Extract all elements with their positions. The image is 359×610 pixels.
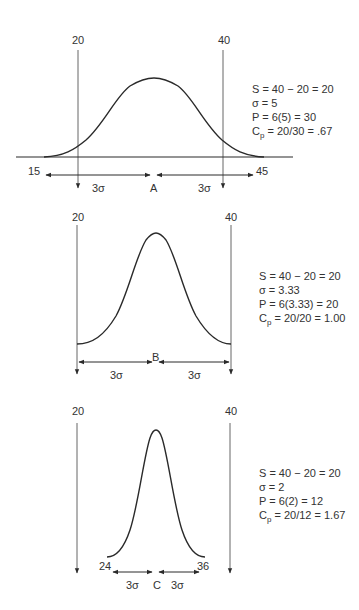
right-tail-label: 45: [256, 165, 268, 177]
equations-a: S = 40 − 20 = 20 σ = 5 P = 6(5) = 30 Cp …: [252, 83, 334, 140]
process-equation: P = 6(5) = 30: [252, 111, 316, 123]
right-3sigma-label: 3σ: [198, 182, 211, 194]
distribution-curve-narrow: [107, 430, 205, 557]
spread-equation: S = 40 − 20 = 20: [259, 467, 341, 479]
cp-equation: Cp = 20/30 = .67: [252, 125, 332, 140]
cp-equation: Cp = 20/20 = 1.00: [259, 312, 345, 327]
left-3sigma-label: 3σ: [92, 182, 105, 194]
diagram-c: 20 40 24 36 3σ C 3σ S = 40 − 20 = 20 σ =…: [72, 405, 345, 591]
upper-spec-label: 40: [225, 211, 237, 223]
spread-equation: S = 40 − 20 = 20: [252, 83, 334, 95]
left-tail-label: 15: [28, 165, 40, 177]
sigma-equation: σ = 3.33: [259, 284, 300, 296]
sigma-equation: σ = 2: [259, 481, 284, 493]
cp-equation: Cp = 20/12 = 1.67: [259, 509, 345, 524]
upper-spec-label: 40: [218, 34, 230, 46]
process-equation: P = 6(2) = 12: [259, 495, 323, 507]
distribution-curve-medium: [77, 233, 231, 344]
right-3sigma-label: 3σ: [188, 369, 201, 381]
center-label: C: [153, 579, 161, 591]
left-tail-label: 24: [99, 560, 111, 572]
lower-spec-label: 20: [72, 34, 84, 46]
diagram-a: 20 40 15 45 3σ A 3σ S = 40 − 20 = 20 σ =…: [16, 34, 334, 194]
right-3sigma-label: 3σ: [171, 579, 184, 591]
lower-spec-label: 20: [72, 405, 84, 417]
sigma-equation: σ = 5: [252, 97, 277, 109]
upper-spec-label: 40: [225, 405, 237, 417]
left-3sigma-label: 3σ: [110, 369, 123, 381]
left-3sigma-label: 3σ: [126, 579, 139, 591]
right-tail-label: 36: [197, 560, 209, 572]
spread-equation: S = 40 − 20 = 20: [259, 270, 341, 282]
center-label: A: [150, 182, 158, 194]
equations-c: S = 40 − 20 = 20 σ = 2 P = 6(2) = 12 Cp …: [259, 467, 345, 524]
lower-spec-label: 20: [72, 211, 84, 223]
distribution-curve-wide: [44, 78, 264, 157]
equations-b: S = 40 − 20 = 20 σ = 3.33 P = 6(3.33) = …: [259, 270, 345, 327]
process-capability-figure: 20 40 15 45 3σ A 3σ S = 40 − 20 = 20 σ =…: [0, 0, 359, 610]
process-equation: P = 6(3.33) = 20: [259, 298, 338, 310]
diagram-b: 20 40 B 3σ 3σ S = 40 − 20 = 20 σ = 3.33 …: [72, 211, 345, 381]
center-label: B: [152, 351, 159, 363]
